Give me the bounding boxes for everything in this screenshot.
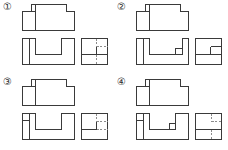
option-2[interactable]: ② xyxy=(114,0,228,75)
option-1[interactable]: ① xyxy=(0,0,114,75)
option-1-views xyxy=(22,2,112,72)
option-2-side-view xyxy=(195,37,225,69)
option-2-views xyxy=(136,2,226,72)
option-3-top-view xyxy=(22,77,78,109)
option-2-top-view xyxy=(136,2,192,34)
option-4[interactable]: ④ xyxy=(114,75,228,150)
option-4-top-view xyxy=(136,77,192,109)
option-3-side-view xyxy=(81,112,111,144)
option-4-side-view xyxy=(195,112,225,144)
option-3-front-view xyxy=(22,112,78,144)
options-grid: ① ② xyxy=(0,0,228,150)
option-1-front-view xyxy=(22,37,78,69)
option-2-label: ② xyxy=(117,2,126,12)
option-3-views xyxy=(22,77,112,147)
option-1-label: ① xyxy=(3,2,12,12)
option-3[interactable]: ③ xyxy=(0,75,114,150)
option-2-front-view xyxy=(136,37,192,69)
option-4-front-view xyxy=(136,112,192,144)
option-3-label: ③ xyxy=(3,77,12,87)
option-4-label: ④ xyxy=(117,77,126,87)
option-1-top-view xyxy=(22,2,78,34)
option-4-views xyxy=(136,77,226,147)
option-1-side-view xyxy=(81,37,111,69)
